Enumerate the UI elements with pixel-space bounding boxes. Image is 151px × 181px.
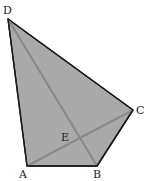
intersection-label-e: E: [61, 131, 69, 144]
vertex-label-c: C: [136, 104, 144, 117]
vertex-label-d: D: [3, 4, 12, 17]
vertex-label-b: B: [93, 168, 101, 181]
vertex-label-a: A: [18, 168, 28, 181]
quadrilateral-diagram: A B C D E: [0, 0, 151, 181]
